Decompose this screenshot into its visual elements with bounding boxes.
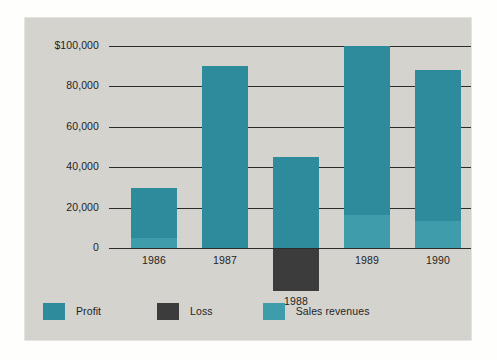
bar-segment-loss-1988 <box>273 249 319 291</box>
legend-item-loss[interactable]: Loss <box>157 303 213 320</box>
ytick-label-40000: 40,000 <box>19 160 99 172</box>
plot-area: $100,000 80,000 60,000 40,000 20,000 0 <box>25 18 471 340</box>
xtick-label-1986: 1986 <box>131 254 177 266</box>
legend-label-profit: Profit <box>76 305 101 317</box>
legend-label-sales-revenues: Sales revenues <box>296 305 370 317</box>
legend-swatch-loss-icon <box>157 303 179 320</box>
bar-segment-profit-1988 <box>273 157 319 248</box>
bar-segment-profit-1986 <box>131 188 177 238</box>
bar-group-1989[interactable] <box>344 18 390 340</box>
ytick-label-0: 0 <box>19 241 99 253</box>
legend-label-loss: Loss <box>190 305 213 317</box>
legend-item-profit[interactable]: Profit <box>43 303 101 320</box>
bar-segment-profit-1990 <box>415 70 461 221</box>
bar-group-1988[interactable] <box>273 18 319 340</box>
xtick-label-1989: 1989 <box>344 254 390 266</box>
legend-item-sales-revenues[interactable]: Sales revenues <box>263 303 370 320</box>
ytick-label-60000: 60,000 <box>19 120 99 132</box>
bar-group-1987[interactable] <box>202 18 248 340</box>
legend-swatch-sales-revenues-icon <box>263 303 285 320</box>
ytick-label-20000: 20,000 <box>19 201 99 213</box>
xtick-label-1987: 1987 <box>202 254 248 266</box>
legend-swatch-profit-icon <box>43 303 65 320</box>
xtick-label-1990: 1990 <box>415 254 461 266</box>
bar-segment-profit-1987 <box>202 66 248 248</box>
bar-segment-sales-1989 <box>344 215 390 248</box>
chart-panel: $100,000 80,000 60,000 40,000 20,000 0 <box>25 18 471 340</box>
bar-segment-sales-1990 <box>415 221 461 248</box>
bar-group-1986[interactable] <box>131 18 177 340</box>
chart-legend: Profit Loss Sales revenues <box>43 298 369 324</box>
ytick-label-100000: $100,000 <box>19 39 99 51</box>
screenshot-root: $100,000 80,000 60,000 40,000 20,000 0 <box>0 0 497 360</box>
bar-segment-sales-1986 <box>131 238 177 248</box>
ytick-label-80000: 80,000 <box>19 79 99 91</box>
bar-group-1990[interactable] <box>415 18 461 340</box>
bar-segment-profit-1989 <box>344 46 390 215</box>
